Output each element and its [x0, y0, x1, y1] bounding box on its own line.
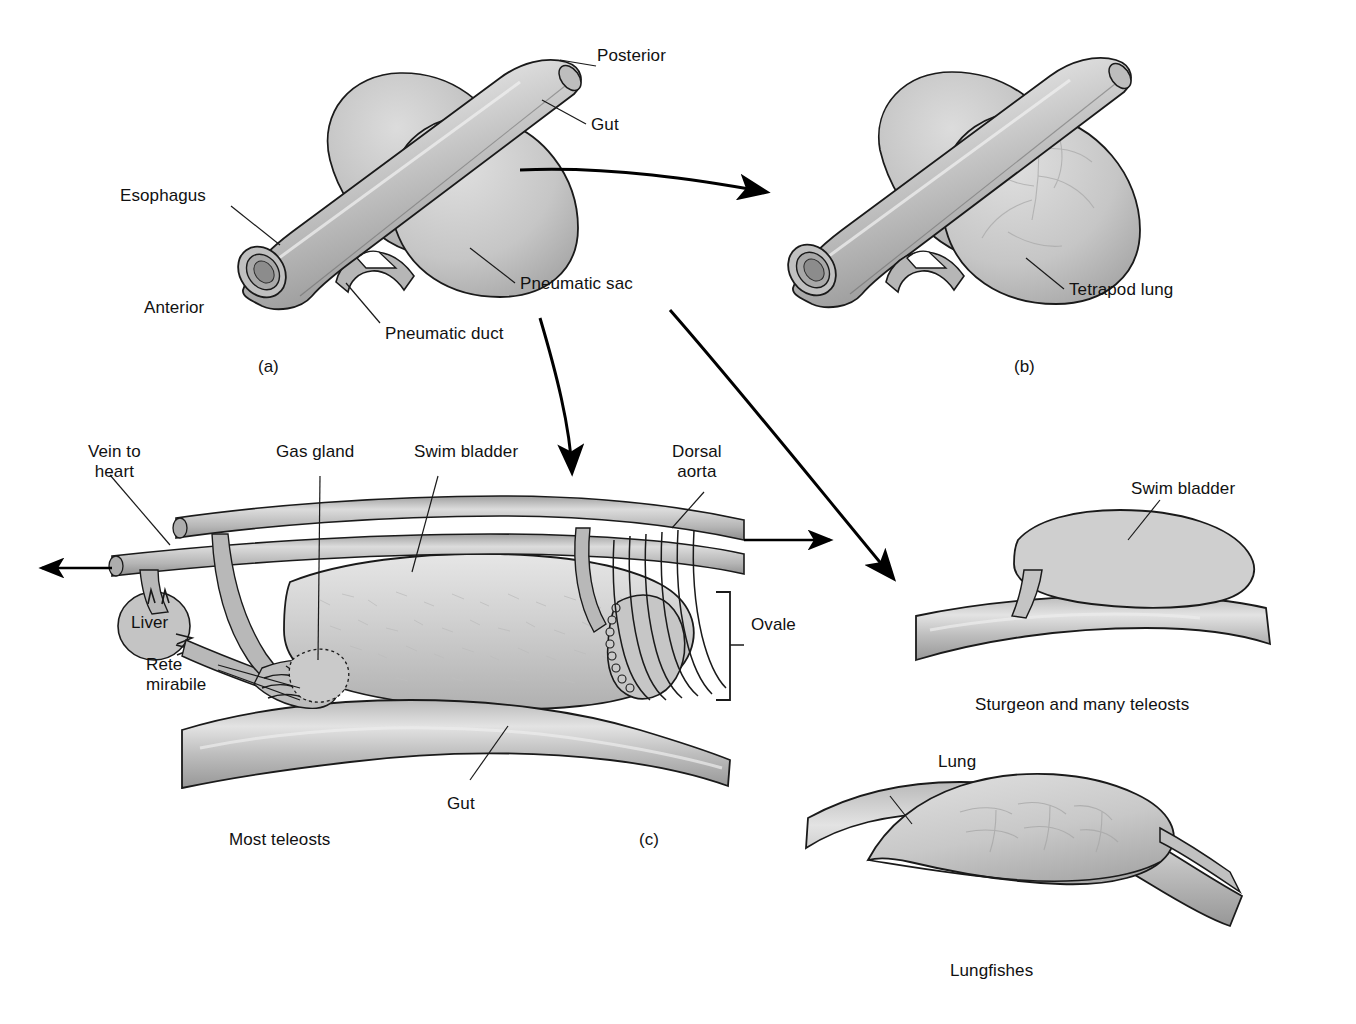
leader-esophagus	[231, 206, 280, 245]
panel-id-c: (c)	[639, 830, 659, 850]
label-tetrapod-lung: Tetrapod lung	[1069, 280, 1173, 300]
panel-id-b: (b)	[1014, 357, 1035, 377]
label-gas-gland: Gas gland	[276, 442, 354, 462]
caption-lungfishes: Lungfishes	[950, 961, 1033, 981]
panel-id-a: (a)	[258, 357, 279, 377]
label-lung-lungfish: Lung	[938, 752, 976, 772]
gas-gland	[289, 649, 349, 702]
anatomy-illustration	[0, 0, 1356, 1024]
sturgeon-swim-bladder	[1014, 510, 1254, 608]
sturgeon-panel-artwork	[916, 500, 1270, 660]
leader-vein-to-heart	[110, 475, 170, 545]
arrow-a-to-c	[540, 318, 572, 472]
label-liver: Liver	[131, 613, 168, 633]
panel-b-artwork	[778, 58, 1140, 307]
dorsal-aorta-end	[173, 518, 187, 538]
sturgeon-gut	[916, 596, 1270, 660]
label-vein-to-heart: Vein to heart	[88, 442, 141, 482]
label-esophagus: Esophagus	[120, 186, 206, 206]
panel-c-gut	[182, 700, 730, 788]
label-gut-a: Gut	[591, 115, 619, 135]
label-ovale: Ovale	[751, 615, 796, 635]
label-swim-bladder-c: Swim bladder	[414, 442, 518, 462]
label-posterior: Posterior	[597, 46, 666, 66]
label-anterior: Anterior	[144, 298, 204, 318]
lungfish-panel-artwork	[806, 774, 1242, 926]
label-swim-bladder-sturgeon: Swim bladder	[1131, 479, 1235, 499]
leader-pneumatic-duct	[346, 283, 380, 323]
figure-canvas: Posterior Gut Esophagus Anterior Pneumat…	[0, 0, 1356, 1024]
caption-sturgeon: Sturgeon and many teleosts	[975, 695, 1189, 715]
label-pneumatic-duct: Pneumatic duct	[385, 324, 504, 344]
vein-end-cap	[109, 556, 123, 576]
label-gut-c: Gut	[447, 794, 475, 814]
label-rete-mirabile: Rete mirabile	[146, 655, 206, 695]
label-dorsal-aorta: Dorsal aorta	[672, 442, 722, 482]
label-most-teleosts: Most teleosts	[229, 830, 330, 850]
label-pneumatic-sac: Pneumatic sac	[520, 274, 633, 294]
